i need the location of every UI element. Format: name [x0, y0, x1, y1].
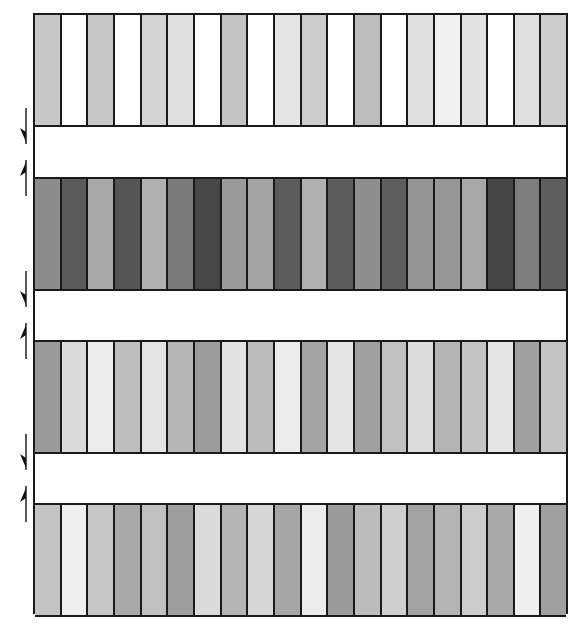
stripe-column	[35, 505, 60, 615]
stripe-column	[486, 15, 513, 125]
stripe-column	[406, 15, 433, 125]
stripe-column	[539, 505, 566, 615]
stripe-column	[140, 342, 167, 452]
stripe-column	[353, 179, 380, 289]
stripe-column	[166, 179, 193, 289]
down-arrow-icon	[16, 434, 32, 470]
stripe-column	[86, 342, 113, 452]
stripe-column	[406, 179, 433, 289]
stripe-column	[486, 342, 513, 452]
gap-2	[35, 289, 566, 340]
stripe-column	[513, 342, 540, 452]
stripe-diagram	[33, 13, 568, 614]
stripe-column	[220, 342, 247, 452]
stripe-column	[486, 505, 513, 615]
stripe-column	[300, 15, 327, 125]
stripe-column	[273, 15, 300, 125]
stripe-column	[113, 179, 140, 289]
stripe-column	[113, 505, 140, 615]
stripe-column	[300, 505, 327, 615]
strip-1	[35, 13, 566, 127]
up-arrow-icon	[16, 160, 32, 196]
stripe-column	[433, 179, 460, 289]
stripe-column	[326, 342, 353, 452]
strip-3	[35, 340, 566, 454]
stripe-column	[60, 15, 87, 125]
stripe-column	[513, 15, 540, 125]
stripe-column	[35, 15, 60, 125]
stripe-column	[539, 179, 566, 289]
stripe-column	[273, 505, 300, 615]
stripe-column	[326, 179, 353, 289]
stripe-column	[193, 505, 220, 615]
stripe-column	[273, 179, 300, 289]
stripe-column	[60, 342, 87, 452]
stripe-column	[166, 342, 193, 452]
stripe-column	[140, 505, 167, 615]
gap-1	[35, 125, 566, 177]
stripe-column	[300, 342, 327, 452]
stripe-column	[539, 342, 566, 452]
stripe-column	[486, 179, 513, 289]
stripe-column	[460, 179, 487, 289]
stripe-column	[193, 179, 220, 289]
stripe-column	[406, 342, 433, 452]
stripe-column	[380, 342, 407, 452]
stripe-column	[86, 179, 113, 289]
stripe-column	[380, 179, 407, 289]
stripe-column	[220, 179, 247, 289]
gap-3	[35, 452, 566, 503]
stripe-column	[460, 342, 487, 452]
strip-4	[35, 503, 566, 617]
stripe-column	[60, 179, 87, 289]
stripe-column	[433, 15, 460, 125]
stripe-column	[86, 505, 113, 615]
stripe-column	[433, 342, 460, 452]
stripe-column	[300, 179, 327, 289]
stripe-column	[246, 505, 273, 615]
stripe-column	[220, 15, 247, 125]
stripe-column	[513, 505, 540, 615]
stripe-column	[353, 342, 380, 452]
stripe-column	[380, 505, 407, 615]
stripe-column	[273, 342, 300, 452]
stripe-column	[193, 342, 220, 452]
down-arrow-icon	[16, 108, 32, 144]
up-arrow-icon	[16, 323, 32, 359]
stripe-column	[193, 15, 220, 125]
stripe-column	[166, 15, 193, 125]
stripe-column	[380, 15, 407, 125]
stripe-column	[113, 15, 140, 125]
stripe-column	[35, 179, 60, 289]
stripe-column	[460, 15, 487, 125]
stripe-column	[86, 15, 113, 125]
down-arrow-icon	[16, 271, 32, 307]
stripe-column	[246, 179, 273, 289]
stripe-column	[246, 15, 273, 125]
up-arrow-icon	[16, 486, 32, 522]
stripe-column	[326, 505, 353, 615]
stripe-column	[113, 342, 140, 452]
stripe-column	[406, 505, 433, 615]
stripe-column	[433, 505, 460, 615]
stripe-column	[353, 505, 380, 615]
stripe-column	[460, 505, 487, 615]
stripe-column	[140, 179, 167, 289]
stripe-column	[166, 505, 193, 615]
stripe-column	[353, 15, 380, 125]
stripe-column	[140, 15, 167, 125]
stripe-column	[220, 505, 247, 615]
stripe-column	[326, 15, 353, 125]
stripe-column	[60, 505, 87, 615]
stripe-column	[35, 342, 60, 452]
strip-2	[35, 177, 566, 291]
stripe-column	[539, 15, 566, 125]
stripe-column	[513, 179, 540, 289]
stripe-column	[246, 342, 273, 452]
